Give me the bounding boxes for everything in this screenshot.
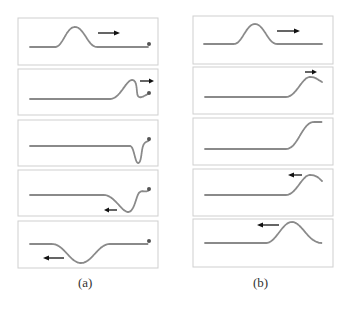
caption-a: (a) [78,275,92,290]
panel-b3 [193,118,333,165]
panel-a1 [18,18,158,65]
column-a: (a) [18,18,158,290]
panel-a2 [18,69,158,115]
panel-a3 [18,120,158,166]
panel-frame [18,120,158,166]
panel-a4 [18,170,158,216]
panel-frame [193,16,333,64]
panel-b2 [193,67,333,114]
fixed-end-icon [147,239,151,243]
fixed-end-icon [147,137,151,141]
caption-b: (b) [253,275,268,290]
panel-b4 [193,169,333,216]
panel-frame [193,118,333,165]
panel-a5 [18,221,158,268]
fixed-end-icon [147,91,151,95]
fixed-end-icon [147,42,151,46]
column-b: (b) [193,16,333,290]
fixed-end-icon [147,187,151,191]
wave-reflection-figure: (a) [0,0,352,310]
panel-frame [18,170,158,216]
panel-b1 [193,16,333,64]
panel-b5 [193,219,333,267]
panel-frame [193,169,333,216]
